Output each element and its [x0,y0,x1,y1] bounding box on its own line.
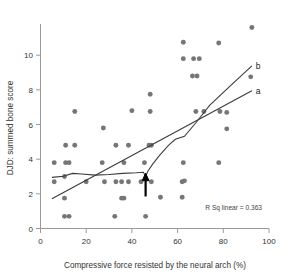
annotation-arrow-icon [142,173,149,196]
y-axis-title: DJD: summed bone score [6,80,15,175]
data-point [100,160,105,165]
data-point [72,143,77,148]
y-tick-label: 2 [29,190,34,199]
data-point [148,92,153,97]
plot-area: 0246810 020406080100 ab R Sq linear = 0.… [0,0,290,277]
data-point [129,108,134,113]
data-point [113,143,118,148]
fit-label-a: a [256,86,261,96]
data-point [52,160,57,165]
data-point [149,179,154,184]
x-tick-label: 40 [127,237,136,246]
data-point [119,179,124,184]
data-point [67,160,72,165]
y-tick-group: 0246810 [24,51,40,233]
scatter-chart: 0246810 020406080100 ab R Sq linear = 0.… [0,0,290,277]
data-point [143,214,148,219]
fit-line-b [52,66,252,177]
data-point [112,214,117,219]
arrow-head [142,173,149,181]
y-tick-label: 4 [29,155,34,164]
data-point [101,126,106,131]
x-tick-label: 80 [219,237,228,246]
fit-line-labels: ab [256,61,261,96]
data-point [62,196,67,201]
x-tick-label: 100 [262,237,276,246]
data-point [193,109,198,114]
data-point [191,56,196,61]
data-point [102,179,107,184]
x-axis-title: Compressive force resisted by the neural… [64,261,246,270]
x-tick-label: 0 [38,237,43,246]
x-axis: 020406080100 [38,229,276,247]
data-point [126,179,131,184]
data-point [67,214,72,219]
data-point [180,195,185,200]
x-tick-label: 60 [173,237,182,246]
data-point [63,143,68,148]
data-point [62,214,67,219]
data-point [224,110,229,115]
data-point [181,56,186,61]
data-point [248,74,253,79]
y-tick-label: 6 [29,121,34,130]
data-point [249,25,254,30]
data-point [216,41,221,46]
data-point [224,126,229,131]
y-tick-label: 10 [24,51,33,60]
data-point [158,195,163,200]
data-point [52,179,57,184]
r-squared-annotation: R Sq linear = 0.363 [205,204,262,212]
data-point [182,178,187,183]
data-point [126,143,131,148]
data-point [181,40,186,45]
data-point [181,160,186,165]
data-point [216,160,221,165]
data-point [195,74,200,79]
data-point [121,196,126,201]
data-point [197,56,202,61]
data-points [52,25,255,219]
fit-lines [52,66,252,199]
data-point [113,179,118,184]
data-point [142,160,147,165]
y-tick-label: 0 [29,225,34,234]
data-point [72,109,77,114]
x-tick-group: 020406080100 [38,229,276,247]
data-point [217,109,222,114]
data-point [190,74,195,79]
y-tick-label: 8 [29,86,34,95]
x-tick-label: 20 [82,237,91,246]
y-axis: 0246810 [24,24,40,234]
fit-label-b: b [256,61,261,71]
data-point [148,109,153,114]
